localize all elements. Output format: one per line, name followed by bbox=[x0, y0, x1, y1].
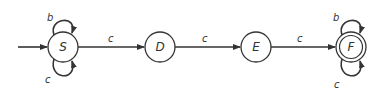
state-e-label: E bbox=[252, 40, 260, 54]
f-loop-bottom-label: c bbox=[334, 79, 340, 90]
edge-e-to-f-label: c bbox=[297, 33, 303, 44]
state-d-label: D bbox=[155, 40, 164, 54]
edge-s-to-d-label: c bbox=[108, 33, 114, 44]
state-f: F bbox=[336, 32, 366, 62]
state-s: S bbox=[48, 32, 78, 62]
s-loop-top-label: b bbox=[47, 12, 53, 23]
state-e: E bbox=[241, 32, 271, 62]
s-loop-bottom-label: c bbox=[45, 74, 51, 85]
state-d: D bbox=[145, 32, 175, 62]
automaton-diagram: S b c c D c E c F b c bbox=[0, 0, 387, 94]
f-loop-top-label: b bbox=[333, 12, 339, 23]
state-s-label: S bbox=[59, 40, 67, 54]
edge-d-to-e-label: c bbox=[202, 33, 208, 44]
state-f-label: F bbox=[348, 40, 356, 54]
